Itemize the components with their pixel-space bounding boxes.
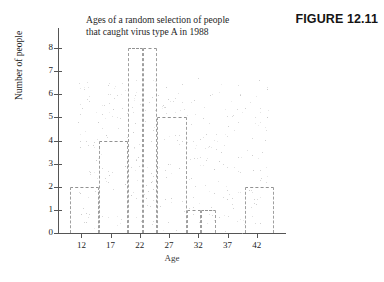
- x-tick-label-12: 12: [77, 240, 86, 250]
- y-tick-mark: [54, 48, 62, 49]
- histogram-bar: [99, 141, 128, 234]
- histogram-bar: [157, 117, 186, 233]
- y-tick-label: 6: [49, 88, 54, 98]
- y-tick-label: 4: [49, 135, 54, 145]
- x-tick-label-17: 17: [106, 240, 115, 250]
- x-tick-mark-42: [257, 233, 258, 238]
- x-tick-label-37: 37: [223, 240, 232, 250]
- y-tick-label: 0: [49, 227, 54, 237]
- x-tick-label-42: 42: [252, 240, 261, 250]
- y-axis-title: Number of people: [14, 31, 24, 100]
- histogram-bar: [128, 48, 143, 233]
- x-axis-title: Age: [58, 253, 286, 263]
- chart-title-line-2: that caught virus type A in 1988: [86, 26, 276, 38]
- x-tick-label-22: 22: [135, 240, 144, 250]
- histogram-bar: [201, 210, 216, 233]
- y-tick-mark: [54, 187, 62, 188]
- x-tick-mark-17: [111, 233, 112, 238]
- x-tick-mark-27: [169, 233, 170, 238]
- y-tick-mark: [54, 71, 62, 72]
- x-tick-mark-22: [140, 233, 141, 238]
- x-axis-line: [58, 233, 286, 234]
- plot-area: 012345678 12172227323742 Age: [58, 48, 286, 233]
- x-tick-label-27: 27: [165, 240, 174, 250]
- y-tick-mark: [54, 233, 62, 234]
- y-tick-label: 1: [49, 204, 54, 214]
- x-tick-mark-37: [228, 233, 229, 238]
- histogram-bar: [70, 187, 99, 233]
- histogram-bar: [245, 187, 274, 233]
- y-tick-mark: [54, 94, 62, 95]
- y-tick-label: 3: [49, 158, 54, 168]
- y-tick-label: 7: [49, 65, 54, 75]
- y-axis-line: [58, 28, 59, 233]
- y-tick-label: 5: [49, 111, 54, 121]
- y-tick-mark: [54, 164, 62, 165]
- y-tick-mark: [54, 141, 62, 142]
- histogram-bar: [187, 210, 202, 233]
- y-tick-mark: [54, 117, 62, 118]
- chart-title-line-1: Ages of a random selection of people: [86, 14, 276, 26]
- y-tick-label: 8: [49, 42, 54, 52]
- y-tick-mark: [54, 210, 62, 211]
- x-tick-mark-32: [198, 233, 199, 238]
- histogram-bar: [143, 48, 158, 233]
- chart-title: Ages of a random selection of people tha…: [86, 14, 276, 37]
- x-tick-label-32: 32: [194, 240, 203, 250]
- figure-label: FIGURE 12.11: [296, 12, 379, 26]
- y-tick-label: 2: [49, 181, 54, 191]
- x-tick-mark-12: [81, 233, 82, 238]
